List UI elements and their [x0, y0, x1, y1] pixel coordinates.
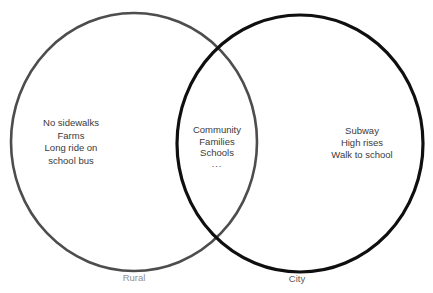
rural-item: Long ride on	[16, 142, 126, 155]
city-item: Subway	[302, 125, 422, 137]
shared-item: Families	[167, 136, 267, 148]
shared-items: Community Families Schools ...	[167, 124, 267, 170]
shared-item: Schools	[167, 147, 267, 159]
rural-item: Farms	[16, 130, 126, 143]
city-items: Subway High rises Walk to school	[302, 125, 422, 161]
rural-items: No sidewalks Farms Long ride on school b…	[16, 117, 126, 167]
city-item: Walk to school	[302, 149, 422, 161]
shared-item: Community	[167, 124, 267, 136]
rural-item: No sidewalks	[16, 117, 126, 130]
city-label: City	[267, 273, 327, 284]
rural-label: Rural	[104, 272, 164, 283]
venn-diagram: No sidewalks Farms Long ride on school b…	[0, 0, 433, 293]
city-item: High rises	[302, 137, 422, 149]
shared-item-ellipsis: ...	[167, 159, 267, 171]
rural-item: school bus	[16, 155, 126, 168]
